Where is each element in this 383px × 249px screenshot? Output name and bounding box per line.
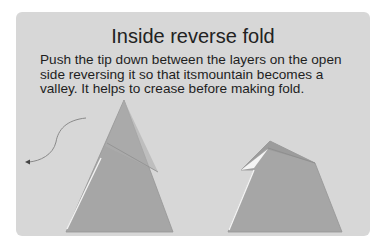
fold-diagram <box>0 0 383 249</box>
before-triangle-figure <box>66 100 173 232</box>
curved-arrow-icon <box>25 118 86 165</box>
after-fold-figure <box>228 141 342 232</box>
